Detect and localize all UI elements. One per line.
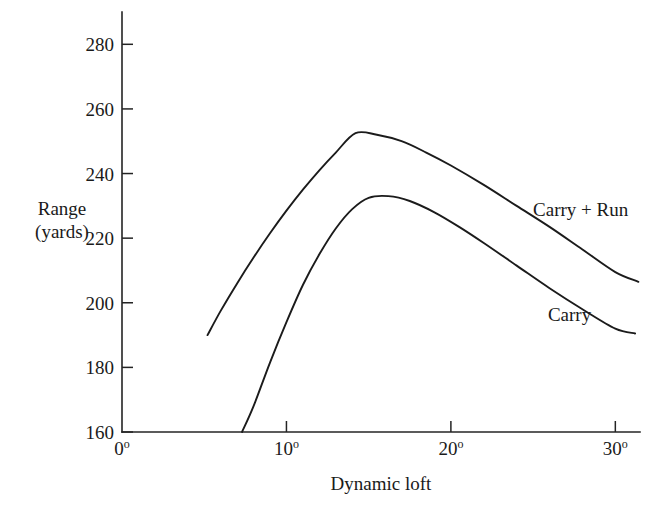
y-tick-label: 160 — [86, 422, 115, 443]
x-axis-title: Dynamic loft — [331, 473, 433, 494]
series-curves — [208, 132, 639, 432]
x-tick-label: 10o — [274, 437, 299, 459]
chart-page: 160180200220240260280 0o10o20o30o Carry … — [0, 0, 667, 513]
y-tick-label: 280 — [86, 34, 115, 55]
y-tick-label: 260 — [86, 99, 115, 120]
series-label-0: Carry + Run — [533, 199, 629, 220]
y-tick-label: 240 — [86, 164, 115, 185]
range-vs-dynamic-loft-chart: 160180200220240260280 0o10o20o30o Carry … — [0, 0, 667, 513]
y-axis-ticks: 160180200220240260280 — [86, 34, 134, 443]
y-axis-title-line2: (yards) — [35, 221, 89, 243]
y-tick-label: 200 — [86, 293, 115, 314]
y-axis-title: Range (yards) — [35, 198, 89, 243]
y-tick-label: 180 — [86, 357, 115, 378]
series-label-1: Carry — [548, 304, 592, 325]
x-tick-label: 0o — [114, 437, 130, 459]
x-tick-label: 20o — [438, 437, 463, 459]
y-axis-title-line1: Range — [38, 198, 87, 219]
x-tick-label: 30o — [603, 437, 628, 459]
series-labels: Carry + RunCarry — [533, 199, 629, 325]
axes-group — [122, 12, 640, 432]
x-axis-ticks: 0o10o20o30o — [114, 421, 628, 459]
y-tick-label: 220 — [86, 228, 115, 249]
